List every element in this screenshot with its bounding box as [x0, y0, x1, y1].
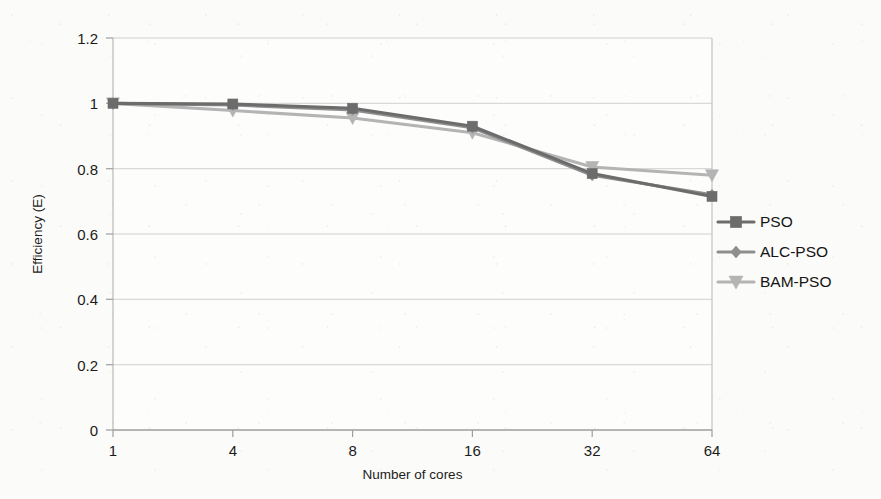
x-tick-label-8: 8 [348, 442, 356, 459]
data-point-pso-8 [348, 103, 358, 113]
x-axis-ticks [113, 430, 712, 437]
x-tick-label-64: 64 [704, 442, 721, 459]
data-point-pso-1 [108, 98, 118, 108]
legend-swatch-marker-alc-pso [731, 246, 742, 258]
legend-marker-group [718, 216, 754, 289]
legend-swatch-marker-pso [730, 216, 741, 227]
x-tick-label-32: 32 [584, 442, 601, 459]
y-axis-title: Efficiency (E) [30, 194, 45, 273]
legend-label-pso: PSO [760, 213, 793, 230]
y-tick-label-0: 0 [90, 422, 98, 439]
efficiency-line-chart: 1.2 1 0.8 0.6 0.4 0.2 0 1 4 8 16 32 64 N… [0, 0, 881, 499]
x-tick-label-4: 4 [229, 442, 237, 459]
legend-label-alc-pso: ALC-PSO [760, 243, 828, 260]
chart-canvas: 1.2 1 0.8 0.6 0.4 0.2 0 1 4 8 16 32 64 N… [0, 0, 881, 499]
data-point-pso-32 [587, 169, 597, 179]
y-tick-label-1: 1 [90, 95, 98, 112]
data-point-pso-16 [467, 121, 477, 131]
y-tick-label-1.2: 1.2 [77, 30, 98, 47]
y-tick-label-0.8: 0.8 [77, 161, 98, 178]
y-tick-label-0.2: 0.2 [77, 357, 98, 374]
x-tick-label-1: 1 [109, 442, 117, 459]
x-tick-label-16: 16 [464, 442, 481, 459]
y-tick-label-0.4: 0.4 [77, 291, 98, 308]
data-point-pso-64 [707, 191, 717, 201]
x-axis-title: Number of cores [363, 467, 463, 482]
chart-legend: PSO ALC-PSO BAM-PSO [718, 213, 831, 290]
y-tick-label-0.6: 0.6 [77, 226, 98, 243]
y-axis-ticks [106, 38, 113, 430]
data-point-pso-4 [228, 99, 238, 109]
legend-label-bam-pso: BAM-PSO [760, 273, 831, 290]
